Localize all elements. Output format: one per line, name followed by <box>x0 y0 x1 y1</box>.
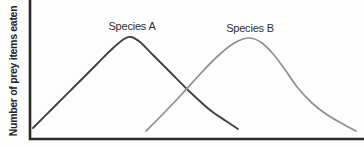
plot-area <box>0 0 364 147</box>
species-b-curve <box>146 38 356 131</box>
species-a-curve <box>33 37 238 129</box>
species-a-label: Species A <box>108 20 155 32</box>
species-b-label: Species B <box>226 22 274 34</box>
niche-overlap-figure: Number of prey items eaten Species A Spe… <box>0 0 364 147</box>
axes-lines <box>30 0 363 139</box>
